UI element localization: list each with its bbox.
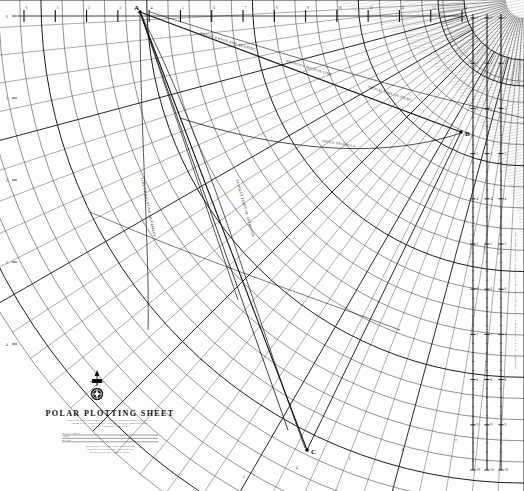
nautical-miles-scale-title: NAUTICAL MILES [469, 239, 472, 261]
scale-tick-label: 9 [505, 423, 507, 427]
scale-tick-label: 3 [477, 152, 479, 156]
top-tick-label: 2 [88, 6, 90, 10]
top-tick-label: 10 [338, 6, 342, 10]
top-tick-label: 9 [307, 6, 309, 10]
scale-tick-label: 5 [491, 242, 493, 246]
scale-tick-label: 3 [505, 152, 507, 156]
scale-tick-label: 6 [477, 287, 479, 291]
top-tick-label: 5 [182, 6, 184, 10]
scale-tick-label: 2 [505, 107, 507, 111]
scale-tick-label: 4 [491, 197, 493, 201]
compass-rose [91, 388, 103, 400]
scale-tick-label: 1 [505, 61, 507, 65]
edge-note: PROPERTY OF U.S. GOVERNMENT — NOT TO BE … [514, 231, 517, 368]
top-tick-label: 11 [370, 6, 374, 10]
scale-tick-label: 8 [505, 378, 507, 382]
point-label-A: A [134, 4, 139, 12]
bottom-tick-label: 4 [296, 466, 298, 470]
left-tick-label: 3 [6, 261, 8, 265]
top-tick-label: 1 [57, 6, 59, 10]
scale-tick-label: 5 [477, 242, 479, 246]
left-tick-label: 4 [6, 343, 8, 347]
scale-tick-label: 7 [505, 333, 507, 337]
scale-tick-label: 7 [477, 333, 479, 337]
polar-plotting-sheet: ABC RADAR RANGE AND BEARINGRELATIVE MOTI… [0, 0, 524, 491]
top-tick-label: 6 [213, 6, 215, 10]
point-label-C: C [311, 448, 316, 456]
bottom-tick-label: 5 [349, 457, 351, 461]
scale-tick-label: 8 [477, 378, 479, 382]
top-tick-label: 7 [245, 6, 247, 10]
yards-scale-title: YARDS [483, 245, 486, 254]
top-tick-label: 4 [151, 6, 153, 10]
scale-tick-label: 10 [505, 468, 509, 472]
scale-tick-label: 9 [477, 423, 479, 427]
scale-tick-label: 1 [477, 61, 479, 65]
scale-tick-label: 10 [477, 468, 481, 472]
meters-scale-title: METERS [497, 244, 500, 255]
scale-tick-label: 1 [491, 61, 493, 65]
plotted-point-C[interactable] [305, 448, 309, 452]
top-tick-label: 13 [432, 6, 436, 10]
top-tick-label: 14 [464, 6, 468, 10]
bottom-tick-label: 7 [455, 439, 457, 443]
left-tick-label: 0 [6, 15, 8, 19]
top-tick-label: 8 [276, 6, 278, 10]
scale-tick-label: 0 [491, 16, 493, 20]
legend-row-label: METERS [62, 439, 71, 441]
scale-tick-label: 3 [491, 152, 493, 156]
scale-tick-label: 4 [477, 197, 479, 201]
scale-tick-label: 5 [505, 242, 507, 246]
legend-row-label: YARDS [62, 435, 70, 437]
scale-tick-label: 7 [491, 333, 493, 337]
title-footer-line: BEARINGS ARE TRUE FROM SEAWARD [90, 451, 130, 453]
plotted-point-B[interactable] [459, 130, 463, 134]
scale-tick-label: 2 [491, 107, 493, 111]
title-footer-line: HEIGHTS IN FEET ABOVE MEAN HIGH WATER [87, 448, 134, 450]
scale-tick-label: 6 [505, 287, 507, 291]
legend-row-label: NAUTICAL MILES [62, 432, 81, 434]
left-tick-label: 1 [6, 97, 8, 101]
point-label-B: B [465, 130, 470, 138]
title-footer-line: SOUNDINGS IN FATHOMS AT MEAN LOW WATER [85, 445, 135, 447]
scale-tick-label: 9 [491, 423, 493, 427]
bottom-tick-label: 3 [243, 475, 245, 479]
top-tick-label: 3 [119, 6, 121, 10]
scale-tick-label: 2 [477, 107, 479, 111]
left-tick-label: 2 [6, 179, 8, 183]
scale-tick-label: 4 [505, 197, 507, 201]
top-tick-label: 12 [401, 6, 405, 10]
chart-canvas: ABC RADAR RANGE AND BEARINGRELATIVE MOTI… [0, 0, 524, 491]
scale-tick-label: 6 [491, 287, 493, 291]
scale-tick-label: 0 [477, 16, 479, 20]
page-title: POLAR PLOTTING SHEET [45, 409, 174, 418]
top-tick-label: 0 [26, 6, 28, 10]
bottom-tick-label: 6 [402, 448, 404, 452]
scale-tick-label: 8 [491, 378, 493, 382]
scale-tick-label: 0 [505, 16, 507, 20]
title-subtitle-line: SCALE 1:100,000 AT 45 LAT. [92, 425, 128, 428]
scale-tick-label: 10 [491, 468, 495, 472]
north-arrow-label: TRUE NORTH [89, 380, 105, 383]
